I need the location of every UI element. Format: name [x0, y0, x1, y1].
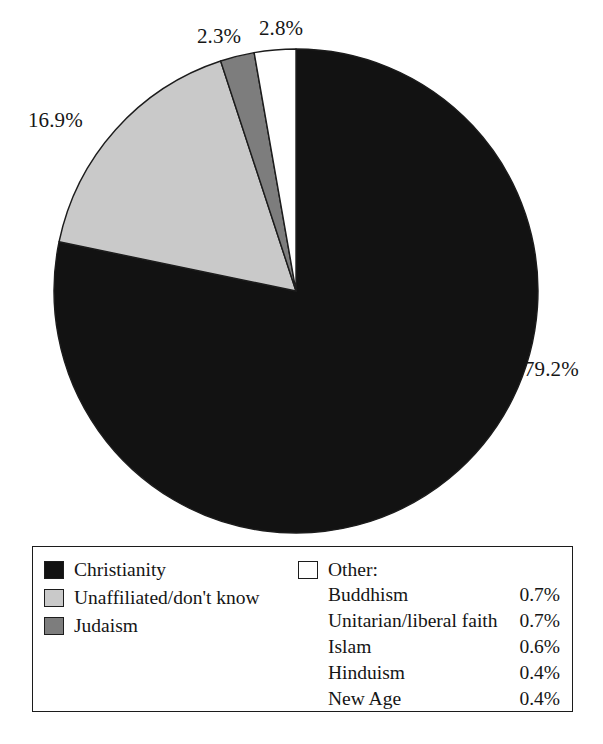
other-breakdown-name: Islam	[328, 636, 519, 658]
legend-swatch-christianity	[44, 561, 64, 579]
other-breakdown-value: 0.4%	[519, 688, 566, 710]
legend-item-other: Other:	[298, 556, 566, 584]
other-breakdown-row: Islam0.6%	[298, 636, 566, 662]
legend-label-judaism: Judaism	[74, 616, 138, 636]
legend-item-unaffiliated: Unaffiliated/don't know	[44, 584, 294, 612]
other-breakdown-row: Buddhism0.7%	[298, 584, 566, 610]
other-breakdown-value: 0.6%	[519, 636, 566, 658]
pie-chart-svg	[0, 0, 603, 545]
legend-swatch-judaism	[44, 617, 64, 635]
slice-label-judaism: 2.3%	[197, 24, 241, 49]
other-breakdown-name: Hinduism	[328, 662, 519, 684]
slice-label-other: 2.8%	[259, 16, 303, 41]
other-breakdown-row: New Age0.4%	[298, 688, 566, 714]
other-breakdown-value: 0.7%	[519, 584, 566, 606]
other-breakdown-row: Unitarian/liberal faith0.7%	[298, 610, 566, 636]
legend-label-christianity: Christianity	[74, 560, 166, 580]
legend-other-column: Other: Buddhism0.7%Unitarian/liberal fai…	[298, 556, 566, 714]
other-breakdown-name: Unitarian/liberal faith	[328, 610, 519, 632]
legend: Christianity Unaffiliated/don't know Jud…	[32, 546, 573, 712]
legend-label-unaffiliated: Unaffiliated/don't know	[74, 588, 260, 608]
other-breakdown-name: New Age	[328, 688, 519, 710]
other-breakdown-row: Hinduism0.4%	[298, 662, 566, 688]
pie-slice-group	[54, 49, 538, 533]
slice-label-unaffiliated: 16.9%	[28, 108, 83, 133]
legend-primary-column: Christianity Unaffiliated/don't know Jud…	[44, 556, 294, 640]
legend-label-other: Other:	[328, 560, 378, 580]
legend-item-christianity: Christianity	[44, 556, 294, 584]
other-breakdown-list: Buddhism0.7%Unitarian/liberal faith0.7%I…	[298, 584, 566, 714]
other-breakdown-value: 0.4%	[519, 662, 566, 684]
slice-label-christianity: 79.2%	[524, 357, 579, 382]
other-breakdown-name: Buddhism	[328, 584, 519, 606]
legend-swatch-unaffiliated	[44, 589, 64, 607]
legend-swatch-other	[298, 561, 318, 579]
other-breakdown-value: 0.7%	[519, 610, 566, 632]
pie-chart: 2.3% 2.8% 16.9% 79.2%	[0, 0, 603, 545]
legend-item-judaism: Judaism	[44, 612, 294, 640]
